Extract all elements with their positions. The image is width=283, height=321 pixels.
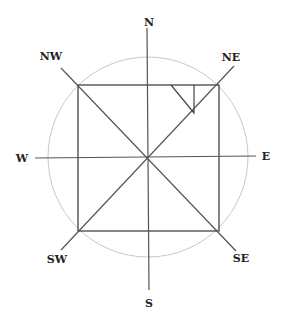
compass-diagram: N NE E SE S SW W NW	[0, 0, 283, 321]
label-northeast: NE	[222, 51, 240, 64]
label-southwest: SW	[47, 253, 68, 266]
label-south: S	[145, 297, 153, 310]
label-northwest: NW	[40, 50, 63, 63]
label-west: W	[15, 152, 29, 165]
label-southeast: SE	[233, 252, 249, 265]
label-north: N	[144, 16, 154, 29]
label-east: E	[262, 150, 270, 163]
right-angle-triangle-marker	[171, 85, 194, 113]
